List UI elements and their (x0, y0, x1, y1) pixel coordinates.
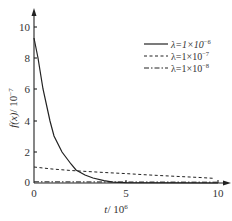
legend: λ=1×10−6 λ=1×10−7 λ=1×10−8 (144, 38, 211, 74)
y-tick-0: 0 (25, 176, 31, 188)
svg-text:λ=1×10−8: λ=1×10−8 (171, 62, 209, 74)
svg-text:λ=1×10−7: λ=1×10−7 (171, 50, 210, 62)
series-lambda-1e-7 (34, 167, 213, 178)
y-tick-8: 8 (25, 52, 31, 64)
legend-item-1e-7: λ=1×10−7 (144, 50, 210, 62)
svg-text:λ=1×10−6: λ=1×10−6 (170, 38, 211, 50)
y-axis-label: f(x)/ 10−7 (7, 88, 20, 128)
x-axis-arrow-icon (223, 181, 231, 186)
y-tick-6: 6 (25, 83, 31, 95)
y-tick-2: 2 (25, 146, 31, 158)
legend-item-1e-6: λ=1×10−6 (144, 38, 211, 50)
x-tick-labels: 0 5 10 (31, 187, 224, 199)
legend-item-1e-8: λ=1×10−8 (144, 62, 209, 74)
x-axis-label: t/ 106 (104, 203, 128, 215)
x-tick-0: 0 (31, 187, 37, 199)
y-tick-10: 10 (19, 21, 31, 33)
axes (32, 8, 232, 186)
y-axis-arrow-icon (32, 8, 37, 16)
x-tick-10: 10 (213, 187, 225, 199)
y-tick-4: 4 (25, 115, 31, 127)
x-tick-5: 5 (123, 187, 129, 199)
y-tick-labels: 10 8 6 4 2 0 (19, 21, 31, 188)
chart: 10 8 6 4 2 0 0 5 10 t/ 106 f(x)/ 10−7 λ=… (0, 0, 232, 221)
